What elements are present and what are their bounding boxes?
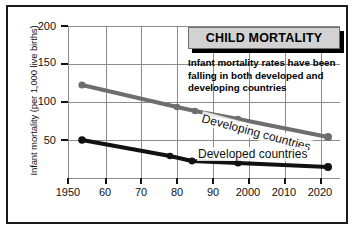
chart-title-badge: CHILD MORTALITY xyxy=(188,27,340,49)
x-axis-ticks xyxy=(68,178,321,184)
chart-caption: Infant mortality rates have been falling… xyxy=(188,57,354,95)
series-label-developed: Developed countries xyxy=(197,147,308,161)
y-axis-ticks xyxy=(61,26,68,140)
child-mortality-chart-figure: Infant mortality (per 1,000 live births)… xyxy=(0,0,355,231)
